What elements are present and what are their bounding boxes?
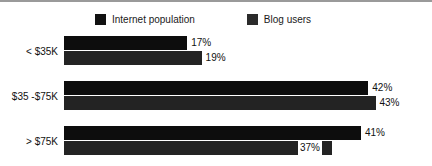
bar-row: 43% xyxy=(64,96,400,110)
category-label: $35 -$75K xyxy=(0,81,58,111)
income-bar-chart: Internet population Blog users < $35K 17… xyxy=(0,0,432,166)
bar-row: 17% xyxy=(64,36,211,50)
bar-value-label: 19% xyxy=(206,51,226,65)
category-label: < $35K xyxy=(0,36,58,66)
legend-swatch-internet-population-icon xyxy=(95,14,106,25)
bar-value-label: 41% xyxy=(365,126,385,140)
legend-item-blog-users: Blog users xyxy=(247,12,311,26)
bar-row: 42% xyxy=(64,81,392,95)
bar-value-label: 42% xyxy=(372,81,392,95)
bar-internet-population xyxy=(64,36,187,50)
legend-item-internet-population: Internet population xyxy=(95,12,195,26)
bar-blog-users xyxy=(64,141,332,155)
bar-row: 41% xyxy=(64,126,385,140)
category-label: > $75K xyxy=(0,126,58,156)
bar-group: < $35K 17% 19% xyxy=(0,36,432,66)
plot-area: < $35K 17% 19% $35 -$75K 42% 43% xyxy=(0,30,432,166)
bar-internet-population xyxy=(64,126,361,140)
bar-row: 19% xyxy=(64,51,226,65)
top-divider-rule xyxy=(0,0,432,2)
legend-swatch-blog-users-icon xyxy=(247,14,258,25)
bar-internet-population xyxy=(64,81,368,95)
bar-value-label: 17% xyxy=(191,36,211,50)
bar-blog-users xyxy=(64,96,376,110)
bar-value-label: 37% xyxy=(298,141,322,155)
bar-blog-users xyxy=(64,51,202,65)
legend-label-internet-population: Internet population xyxy=(112,14,195,25)
legend-label-blog-users: Blog users xyxy=(264,14,311,25)
bar-row: 37% xyxy=(64,141,322,155)
bar-value-label: 43% xyxy=(380,96,400,110)
bar-group: > $75K 41% 37% xyxy=(0,126,432,156)
bar-group: $35 -$75K 42% 43% xyxy=(0,81,432,111)
chart-legend: Internet population Blog users xyxy=(95,12,311,26)
